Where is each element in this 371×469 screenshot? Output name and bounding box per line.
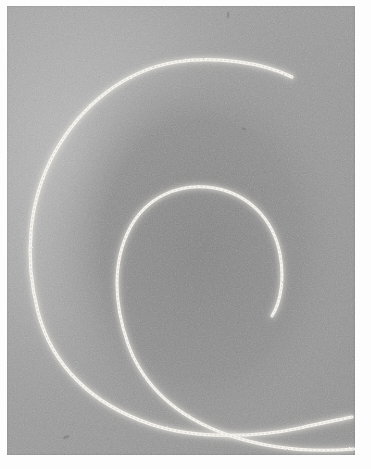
spiral-track-image (7, 6, 355, 455)
image-title: Spiral particle track photograph (0, 0, 1, 1)
scene-description: Two bright white spiral tracks curving c… (0, 0, 1, 1)
photo-viewer: Spiral particle track photograph Two bri… (0, 0, 371, 469)
inner-track-label: Inner spiral arc (0, 0, 1, 1)
grain-overlay (7, 6, 355, 455)
outer-track-label: Outer spiral arc (0, 0, 1, 1)
photograph-plate (7, 6, 355, 455)
